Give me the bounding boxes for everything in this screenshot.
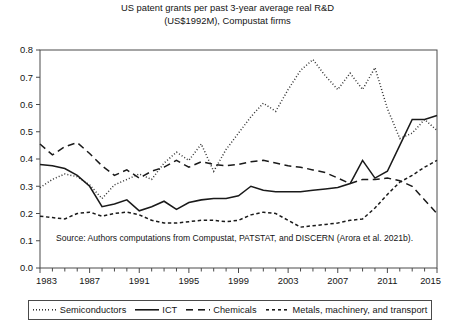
legend-label-semiconductors: Semiconductors: [60, 305, 127, 315]
chart-legend: Semiconductors ICT Chemicals Metals, mac…: [28, 300, 432, 320]
svg-text:2015: 2015: [420, 275, 441, 286]
plot-area: 0.00.10.20.30.40.50.60.70.8 198319871991…: [0, 0, 455, 300]
figure-container: US patent grants per past 3-year average…: [0, 0, 455, 326]
legend-item-semiconductors: Semiconductors: [33, 305, 127, 315]
svg-text:0.5: 0.5: [20, 126, 33, 137]
legend-swatch-chemicals: [186, 306, 210, 314]
x-axis-tick-labels: 198319871991199519992003200720112015: [36, 275, 441, 286]
svg-text:1999: 1999: [228, 275, 249, 286]
svg-text:0.7: 0.7: [20, 72, 33, 83]
data-series-group: [40, 60, 437, 228]
legend-swatch-ict: [135, 306, 159, 314]
y-axis-tick-labels: 0.00.10.20.30.40.50.60.70.8: [20, 44, 33, 273]
svg-text:0.6: 0.6: [20, 99, 33, 110]
svg-text:1991: 1991: [129, 275, 150, 286]
legend-label-metals: Metals, machinery, and transport: [293, 305, 428, 315]
svg-text:0.0: 0.0: [20, 262, 33, 273]
x-axis-ticks: [40, 268, 437, 273]
svg-text:2007: 2007: [327, 275, 348, 286]
series-line-semiconductors: [40, 60, 437, 199]
svg-text:0.1: 0.1: [20, 235, 33, 246]
legend-item-ict: ICT: [135, 305, 177, 315]
y-axis-ticks: [36, 50, 40, 268]
svg-text:1995: 1995: [178, 275, 199, 286]
legend-label-chemicals: Chemicals: [213, 305, 256, 315]
svg-text:1987: 1987: [79, 275, 100, 286]
svg-text:0.3: 0.3: [20, 181, 33, 192]
svg-text:2011: 2011: [377, 275, 397, 286]
source-note-group: Source: Authors computations from Compus…: [56, 233, 413, 243]
legend-item-chemicals: Chemicals: [186, 305, 256, 315]
legend-swatch-metals: [266, 306, 290, 314]
series-line-metals-machinery-and-transport: [40, 160, 437, 227]
svg-text:0.4: 0.4: [20, 153, 33, 164]
svg-text:0.8: 0.8: [20, 44, 33, 55]
legend-swatch-semiconductors: [33, 306, 57, 314]
source-note: Source: Authors computations from Compus…: [56, 233, 413, 243]
legend-label-ict: ICT: [162, 305, 177, 315]
svg-text:0.2: 0.2: [20, 208, 33, 219]
svg-text:1983: 1983: [36, 275, 57, 286]
svg-text:2003: 2003: [278, 275, 299, 286]
legend-item-metals: Metals, machinery, and transport: [266, 305, 428, 315]
line-chart: 0.00.10.20.30.40.50.60.70.8 198319871991…: [0, 0, 455, 300]
